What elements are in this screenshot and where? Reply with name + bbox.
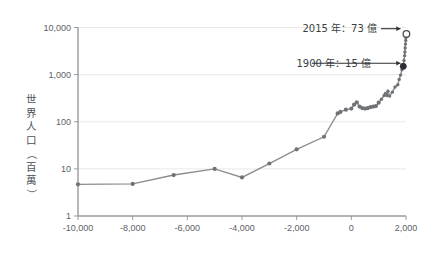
ytick-label: 1,000 [48, 70, 71, 80]
series-point [295, 147, 299, 151]
series-point [399, 73, 402, 76]
xtick-label: -6,000 [175, 223, 201, 233]
ytick-label: 100 [56, 117, 71, 127]
y-axis-title-char: 萬 [26, 174, 36, 186]
series-point [402, 59, 405, 62]
series-point [267, 161, 271, 165]
y-axis-title-char: 百 [26, 161, 36, 173]
y-axis-title-char: 界 [26, 107, 37, 119]
series-point [380, 98, 383, 101]
ytick-label: 1 [66, 211, 71, 221]
y-axis-title-char: 口 [26, 134, 36, 146]
series-point [344, 108, 348, 112]
y-axis-title-char: ） [26, 189, 38, 199]
ytick-label: 10,000 [43, 23, 71, 33]
series-point [338, 110, 342, 114]
y-axis-title-char: （ [26, 149, 38, 159]
ytick-label: 10 [61, 164, 71, 174]
annot-2015-label: 2015 年：73 億 [302, 22, 377, 34]
series-point [393, 85, 396, 88]
series-point [355, 100, 359, 104]
series-point [377, 101, 381, 105]
series-point [397, 78, 400, 81]
series-point [322, 135, 326, 139]
series-point [391, 90, 394, 93]
chart-canvas: 1101001,00010,000 -10,000-8,000-6,000-4,… [0, 0, 445, 254]
annot-1900-label: 1900 年：15 億 [296, 57, 371, 69]
series-point [404, 39, 407, 42]
series-point [403, 54, 406, 57]
y-axis-title-char: 世 [26, 93, 36, 105]
series-point [403, 46, 406, 49]
series-point [388, 94, 391, 97]
series-point [403, 50, 406, 53]
annot-1900-marker [400, 63, 406, 69]
xtick-label: 0 [349, 223, 354, 233]
xtick-label: -10,000 [63, 223, 94, 233]
xtick-label: -4,000 [229, 223, 255, 233]
series-point [172, 173, 176, 177]
series-point [76, 182, 80, 186]
annot-2015-marker [403, 31, 410, 38]
series-point [374, 104, 378, 108]
series-point [396, 83, 399, 86]
xtick-label: -8,000 [120, 223, 146, 233]
series-point [386, 90, 389, 93]
world-population-chart: 1101001,00010,000 -10,000-8,000-6,000-4,… [0, 0, 445, 254]
series-point [240, 175, 244, 179]
xtick-label: 2,000 [395, 223, 418, 233]
series-point [213, 167, 217, 171]
y-axis-title-char: 人 [26, 120, 37, 132]
series-point [131, 182, 135, 186]
series-point [404, 42, 407, 45]
xtick-label: -2,000 [284, 223, 310, 233]
series-point [349, 107, 353, 111]
